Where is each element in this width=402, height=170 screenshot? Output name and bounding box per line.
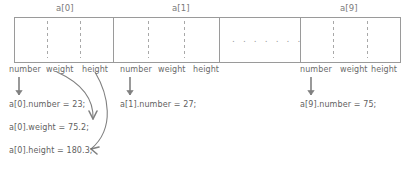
diagram-canvas (0, 0, 402, 170)
field-label-weight-1: weight (46, 65, 74, 74)
arrow-a9-number-head (308, 91, 314, 96)
array-cell-boxes (15, 18, 401, 63)
field-label-number-6: number (300, 65, 332, 74)
field-label-height-8: height (371, 65, 397, 74)
array-struct-diagram: . . . . . . .a[0]a[1]a[9]numberweighthei… (0, 0, 402, 170)
field-label-height-5: height (193, 65, 219, 74)
statement-a0-number: a[0].number = 23; (9, 100, 85, 109)
array-cell-a1 (114, 18, 220, 63)
statement-a9-number: a[9].number = 75; (300, 100, 376, 109)
arrow-a0-weight-shaft (57, 72, 93, 119)
field-label-number-3: number (120, 65, 152, 74)
field-label-weight-7: weight (340, 65, 368, 74)
array-cell-a9 (301, 18, 401, 63)
arrow-a1-number-head (127, 91, 133, 96)
field-label-weight-4: weight (158, 65, 186, 74)
statement-a0-height: a[0].height = 180.3; (9, 146, 93, 155)
array-index-label-0: a[0] (56, 3, 74, 13)
annotation-arrows (16, 72, 314, 154)
array-cell-a0 (15, 18, 114, 63)
array-index-label-1: a[1] (172, 3, 190, 13)
arrow-a0-number-head (16, 91, 22, 96)
ellipsis-dots: . . . . . . . (232, 34, 303, 44)
statement-a0-weight: a[0].weight = 75.2; (9, 123, 89, 132)
arrow-a0-height-shaft (91, 72, 107, 149)
field-label-height-2: height (82, 65, 108, 74)
field-label-number-0: number (9, 65, 41, 74)
statement-a1-number: a[1].number = 27; (120, 100, 196, 109)
array-index-label-2: a[9] (340, 3, 358, 13)
